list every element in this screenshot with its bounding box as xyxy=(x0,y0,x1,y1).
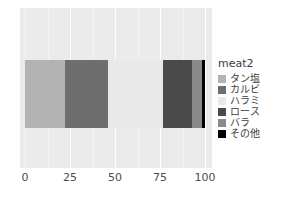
x-tick-label-100: 100 xyxy=(195,171,216,184)
legend-item-harami[interactable]: ハラミ xyxy=(218,95,282,106)
x-axis: 0 25 50 75 100 xyxy=(20,168,212,190)
x-tick-label-0: 0 xyxy=(22,171,29,184)
stacked-bar xyxy=(25,60,205,128)
legend-label-tanshio: タン塩 xyxy=(230,73,260,84)
legend-swatch-karubi xyxy=(218,86,226,94)
bar-segment-karubi xyxy=(65,60,108,128)
legend-label-bara: バラ xyxy=(230,117,250,128)
legend-swatch-bara xyxy=(218,119,226,127)
bar-segment-harami xyxy=(108,60,163,128)
bar-segment-rosu xyxy=(163,60,193,128)
legend: meat2 タン塩 カルビ ハラミ ロース バラ その他 xyxy=(218,58,282,139)
bar-segment-sonota xyxy=(202,60,205,128)
legend-title: meat2 xyxy=(218,58,282,70)
legend-swatch-tanshio xyxy=(218,75,226,83)
gridline-major-100 xyxy=(205,8,206,168)
legend-label-sonota: その他 xyxy=(230,128,260,139)
legend-item-tanshio[interactable]: タン塩 xyxy=(218,73,282,84)
legend-label-rosu: ロース xyxy=(230,106,260,117)
chart-container: 0 25 50 75 100 meat2 タン塩 カルビ ハラミ ロース バラ xyxy=(0,0,284,204)
bar-segment-bara xyxy=(192,60,202,128)
legend-item-sonota[interactable]: その他 xyxy=(218,128,282,139)
x-tick-label-50: 50 xyxy=(108,171,122,184)
plot-panel xyxy=(20,8,212,168)
bar-segment-tanshio xyxy=(25,60,65,128)
legend-item-bara[interactable]: バラ xyxy=(218,117,282,128)
legend-label-karubi: カルビ xyxy=(230,84,260,95)
legend-swatch-sonota xyxy=(218,130,226,138)
legend-item-rosu[interactable]: ロース xyxy=(218,106,282,117)
x-tick-label-75: 75 xyxy=(153,171,167,184)
legend-swatch-harami xyxy=(218,97,226,105)
legend-swatch-rosu xyxy=(218,108,226,116)
x-tick-label-25: 25 xyxy=(63,171,77,184)
legend-label-harami: ハラミ xyxy=(230,95,260,106)
legend-item-karubi[interactable]: カルビ xyxy=(218,84,282,95)
